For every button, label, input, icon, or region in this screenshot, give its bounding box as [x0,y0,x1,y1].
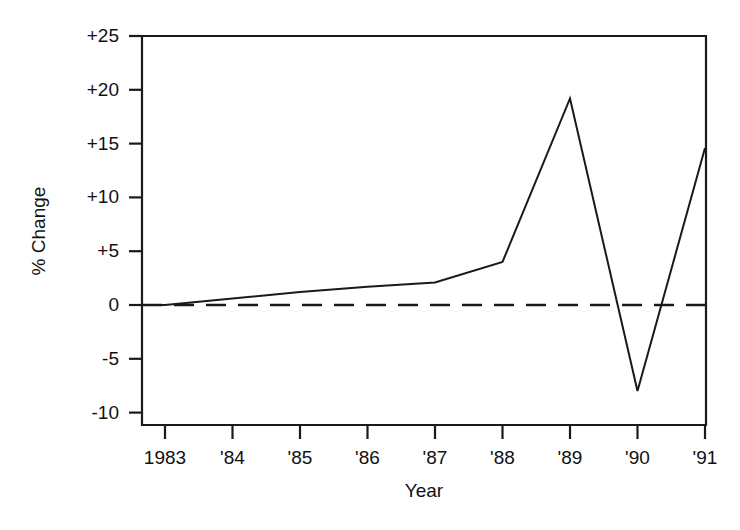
y-tick-label: 0 [108,294,119,315]
y-tick-label: +5 [97,240,119,261]
y-tick-label: +25 [87,25,119,46]
y-axis-title: % Change [28,187,49,276]
y-tick-label: +15 [87,133,119,154]
y-tick-label: -5 [102,348,119,369]
y-tick-label: +10 [87,186,119,207]
x-tick-label: '88 [490,447,515,468]
line-chart: +25+20+15+10+50-5-10 1983'84'85'86'87'88… [0,0,740,530]
y-tick-label: -10 [92,402,119,423]
x-tick-label: 1983 [144,447,186,468]
chart-container: +25+20+15+10+50-5-10 1983'84'85'86'87'88… [0,0,740,530]
x-tick-label: '85 [288,447,313,468]
x-tick-label: '87 [423,447,448,468]
x-tick-label: '89 [558,447,583,468]
x-tick-label: '84 [220,447,245,468]
x-tick-label: '90 [625,447,650,468]
x-tick-label: '86 [355,447,380,468]
x-axis-title: Year [405,480,444,501]
y-tick-label: +20 [87,79,119,100]
x-tick-label: '91 [693,447,718,468]
x-axis-tick-labels: 1983'84'85'86'87'88'89'90'91 [144,447,718,468]
